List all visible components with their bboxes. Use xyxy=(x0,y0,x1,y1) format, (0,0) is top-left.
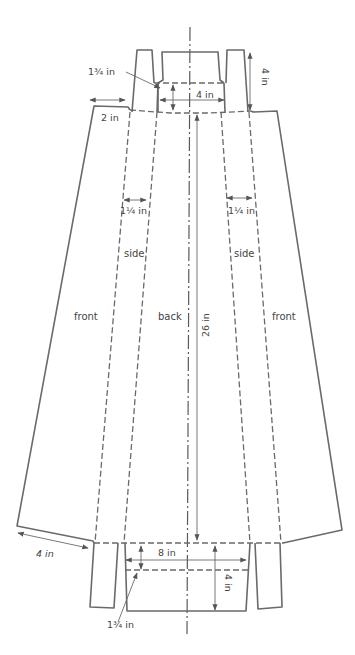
bottom-tab-height-label: 4 in xyxy=(223,574,234,592)
right-outer-seam xyxy=(249,112,281,543)
top-facing-label: 1¾ in xyxy=(88,66,115,77)
top-facing-leader xyxy=(126,72,160,88)
length-label: 26 in xyxy=(200,313,211,337)
top-right-tab xyxy=(226,50,248,112)
top-left-tab xyxy=(132,50,154,112)
bottom-band-group xyxy=(90,543,282,611)
top-center-right-side xyxy=(224,83,225,112)
skirt-pattern-diagram: 1¾ in 4 in 4 in 2 in 1¼ in 1¼ in 26 in 4… xyxy=(0,0,355,655)
right-front-panel-outline xyxy=(251,111,342,543)
bottom-facing-leader xyxy=(118,573,137,622)
right-inner-seam xyxy=(221,112,250,543)
bottom-left-tab xyxy=(90,543,118,608)
right-seam-label: 1¼ in xyxy=(228,205,255,216)
right-side-label: side xyxy=(234,248,255,259)
left-front-label: front xyxy=(74,311,98,322)
top-center-piece xyxy=(158,52,224,112)
bottom-right-tab xyxy=(255,543,282,609)
left-inner-seam xyxy=(124,112,157,543)
left-front-panel-outline xyxy=(17,106,130,543)
bottom-facing-label: 1¾ in xyxy=(107,619,134,630)
right-front-label: front xyxy=(272,311,296,322)
back-label: back xyxy=(158,311,182,322)
left-seam-label: 1¼ in xyxy=(120,205,147,216)
top-tab-height-label: 4 in xyxy=(260,68,271,86)
left-outer-seam xyxy=(95,112,130,543)
bottom-width-label: 8 in xyxy=(158,547,176,558)
top-width-label: 4 in xyxy=(196,89,214,100)
hem-width-dim xyxy=(18,533,88,548)
hem-width-label: 4 in xyxy=(36,548,54,559)
waist-line xyxy=(130,110,251,113)
front-waist-label: 2 in xyxy=(101,112,119,123)
left-side-label: side xyxy=(124,248,145,259)
